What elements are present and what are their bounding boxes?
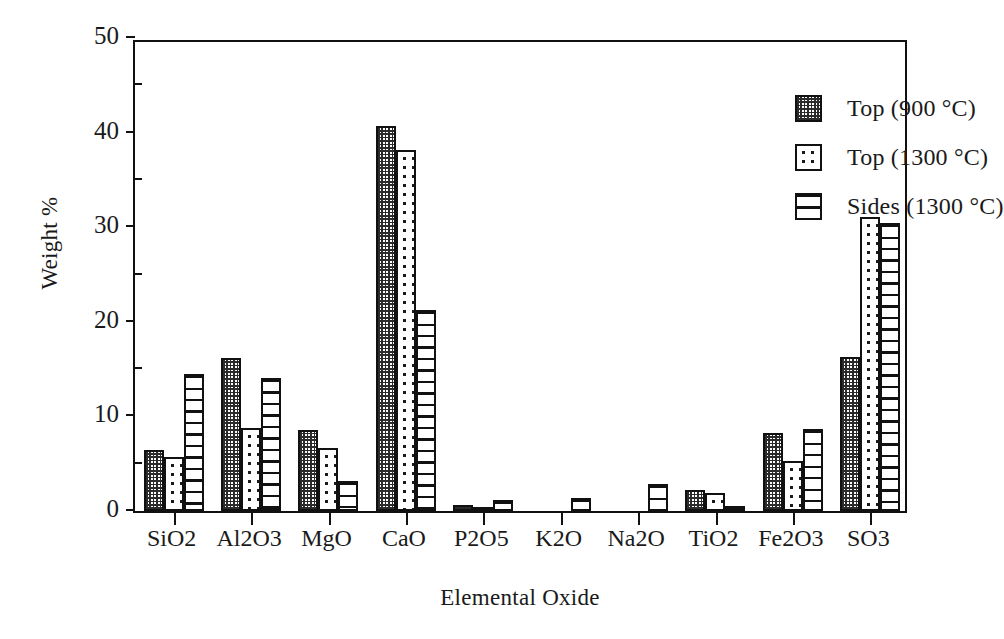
bar-group (135, 42, 212, 511)
bar (396, 150, 416, 511)
bar (261, 378, 281, 511)
bar-group (599, 42, 676, 511)
chart-legend: Top (900 °C)Top (1300 °C)Sides (1300 °C) (795, 95, 1004, 220)
y-tick: 30 (126, 225, 135, 227)
x-tick-label: SiO2 (147, 525, 196, 552)
bar (763, 433, 783, 511)
bar (571, 498, 591, 511)
bar-group (367, 42, 444, 511)
x-tick (870, 511, 872, 525)
x-tick (716, 511, 718, 525)
bar (860, 217, 880, 511)
legend-item: Sides (1300 °C) (795, 193, 1004, 220)
bar (783, 461, 803, 511)
x-tick-label: Al2O3 (216, 525, 281, 552)
x-tick (638, 511, 640, 525)
y-tick-label: 30 (94, 211, 119, 239)
bar-group (677, 42, 754, 511)
x-tick (329, 511, 331, 525)
y-axis-title: Weight % (37, 163, 63, 323)
plot-area: 01020304050 Top (900 °C)Top (1300 °C)Sid… (133, 40, 907, 513)
legend-label: Top (900 °C) (847, 95, 976, 122)
x-axis-title: Elemental Oxide (133, 585, 907, 611)
x-tick-label: TiO2 (689, 525, 739, 552)
bar-series-layer (135, 42, 905, 511)
bar (648, 484, 668, 511)
bar-group (290, 42, 367, 511)
x-tick (483, 511, 485, 525)
y-tick: 20 (126, 320, 135, 322)
bar (164, 457, 184, 511)
bar (376, 126, 396, 511)
legend-label: Top (1300 °C) (847, 144, 988, 171)
legend-label: Sides (1300 °C) (847, 193, 1004, 220)
x-tick-label: SO3 (847, 525, 890, 552)
bar (705, 493, 725, 511)
y-tick: 40 (126, 131, 135, 133)
y-tick-label: 40 (94, 117, 119, 145)
bar (416, 310, 436, 511)
bar-group (212, 42, 289, 511)
x-tick-label: MgO (301, 525, 352, 552)
y-tick: 0 (126, 509, 135, 511)
bar (803, 429, 823, 511)
bar (880, 223, 900, 511)
x-tick-label: K2O (535, 525, 582, 552)
bar (840, 357, 860, 511)
bar (221, 358, 241, 511)
x-tick (251, 511, 253, 525)
y-tick-label: 0 (107, 495, 120, 523)
bar-group (445, 42, 522, 511)
legend-swatch-cross-hatch (795, 95, 822, 122)
legend-item: Top (1300 °C) (795, 144, 1004, 171)
bar (685, 490, 705, 511)
bar (184, 374, 204, 511)
bar (725, 506, 745, 511)
legend-swatch-dots (795, 144, 822, 171)
y-tick-label: 10 (94, 400, 119, 428)
bar (318, 448, 338, 511)
bar (453, 505, 473, 511)
x-tick-label: CaO (382, 525, 426, 552)
y-tick-label: 20 (94, 306, 119, 334)
y-tick: 10 (126, 414, 135, 416)
legend-item: Top (900 °C) (795, 95, 1004, 122)
bar (241, 428, 261, 511)
legend-swatch-horizontal-lines (795, 193, 822, 220)
x-tick (406, 511, 408, 525)
x-tick-label: Na2O (607, 525, 664, 552)
x-tick (561, 511, 563, 525)
bar (298, 430, 318, 511)
bar (338, 481, 358, 511)
x-tick-label: P2O5 (454, 525, 509, 552)
x-tick (793, 511, 795, 525)
x-tick-label: Fe2O3 (758, 525, 823, 552)
y-tick: 50 (126, 36, 135, 38)
bar-group (522, 42, 599, 511)
x-tick (174, 511, 176, 525)
y-tick-label: 50 (94, 22, 119, 50)
bar (493, 500, 513, 511)
bar (144, 450, 164, 511)
